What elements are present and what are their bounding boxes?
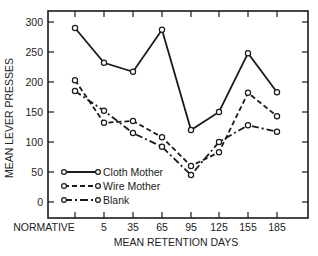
data-point-marker: [159, 27, 164, 32]
x-tick-label: 185: [268, 221, 286, 233]
legend-marker: [62, 198, 67, 203]
data-point-marker: [72, 25, 77, 30]
x-tick-label: 155: [239, 221, 257, 233]
data-point-marker: [72, 88, 77, 93]
legend-marker: [96, 198, 101, 203]
legend-label: Cloth Mother: [103, 166, 164, 178]
y-tick-label: 100: [25, 136, 43, 148]
legend: Cloth MotherWire MotherBlank: [62, 166, 164, 206]
y-tick-label: 250: [25, 46, 43, 58]
legend-label: Blank: [103, 194, 130, 206]
data-point-marker: [274, 114, 279, 119]
data-point-marker: [188, 163, 193, 168]
x-tick-label: 5: [101, 221, 107, 233]
series-line-cloth-mother: [75, 28, 277, 130]
x-tick-label: 35: [127, 221, 139, 233]
data-point-marker: [101, 60, 106, 65]
x-axis-label: MEAN RETENTION DAYS: [114, 236, 239, 248]
data-point-marker: [101, 108, 106, 113]
data-point-marker: [101, 120, 106, 125]
data-point-marker: [216, 139, 221, 144]
data-point-marker: [159, 135, 164, 140]
data-point-marker: [274, 90, 279, 95]
data-point-marker: [216, 109, 221, 114]
data-point-marker: [130, 69, 135, 74]
series-line-blank: [75, 91, 277, 175]
legend-marker: [96, 170, 101, 175]
data-point-marker: [188, 127, 193, 132]
data-point-marker: [245, 123, 250, 128]
data-point-marker: [245, 51, 250, 56]
line-chart: 050100150200250300NORMATIVE5356595125155…: [0, 0, 318, 256]
x-tick-label: 95: [185, 221, 197, 233]
y-tick-label: 0: [37, 196, 43, 208]
data-point-marker: [274, 129, 279, 134]
legend-marker: [62, 184, 67, 189]
series-group: [72, 25, 279, 177]
x-tick-label: 125: [210, 221, 228, 233]
data-point-marker: [130, 118, 135, 123]
x-tick-label: 65: [156, 221, 168, 233]
data-point-marker: [130, 130, 135, 135]
y-tick-label: 200: [25, 76, 43, 88]
plot-area: 050100150200250300NORMATIVE5356595125155…: [13, 11, 308, 233]
legend-marker: [96, 184, 101, 189]
legend-marker: [62, 170, 67, 175]
data-point-marker: [245, 90, 250, 95]
data-point-marker: [72, 78, 77, 83]
x-tick-label: NORMATIVE: [13, 221, 75, 233]
data-point-marker: [216, 150, 221, 155]
y-tick-label: 50: [31, 166, 43, 178]
data-point-marker: [188, 172, 193, 177]
y-axis-label: MEAN LEVER PRESSES: [3, 58, 15, 178]
legend-label: Wire Mother: [103, 180, 161, 192]
y-tick-label: 150: [25, 106, 43, 118]
y-tick-label: 300: [25, 16, 43, 28]
data-point-marker: [159, 144, 164, 149]
